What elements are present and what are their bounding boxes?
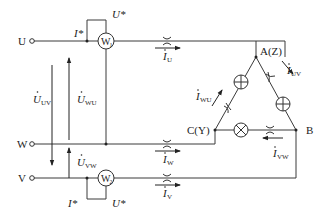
voltage-vw-dot — [81, 154, 83, 156]
lamp-vw-icon — [234, 123, 248, 137]
w1-junction-dot — [86, 40, 89, 43]
terminal-w-icon — [30, 142, 35, 147]
voltage-wu-sub: WU — [85, 99, 97, 107]
terminal-v-icon — [30, 176, 35, 181]
w2-current-mark: I* — [67, 197, 78, 209]
node-b-dot — [295, 129, 298, 132]
w-junction-dot — [105, 143, 108, 146]
lamp-wu-icon — [234, 75, 248, 89]
current-w-sub: W — [167, 159, 174, 167]
branch-a-c — [215, 57, 256, 130]
current-vw-dot — [274, 146, 276, 148]
node-a-label: A(Z) — [260, 45, 282, 58]
node-a-dot — [255, 56, 258, 59]
terminal-label-w: W — [17, 138, 28, 150]
voltage-vw-sub: VW — [85, 162, 97, 170]
current-wu-dot — [197, 89, 199, 91]
terminal-label-u: U — [18, 35, 26, 47]
wattmeter-w1-sub: 1 — [110, 42, 113, 48]
w1-voltage-mark: U* — [112, 8, 126, 20]
current-uv-dot — [288, 63, 290, 65]
circuit-svg: U W V W 1 I* U* W 2 I* U* U UV U WU U VW — [0, 0, 324, 215]
wattmeter-w2-sub: 2 — [110, 179, 113, 185]
current-vw-sub: VW — [277, 153, 289, 161]
node-c-dot — [214, 129, 217, 132]
current-uv-sub: UV — [291, 70, 301, 78]
voltage-wu-dot — [81, 91, 83, 93]
w1-current-mark: I* — [73, 27, 84, 39]
current-v-sub: V — [167, 193, 172, 201]
current-wu-sub: WU — [200, 96, 212, 104]
terminal-u-icon — [30, 39, 35, 44]
node-c-label: C(Y) — [187, 124, 210, 137]
w2-junction-dot — [86, 177, 89, 180]
voltage-uv-sub: UV — [41, 99, 51, 107]
voltage-uv-dot — [37, 91, 39, 93]
circuit-diagram: U W V W 1 I* U* W 2 I* U* U UV U WU U VW — [0, 0, 324, 215]
current-u-dot — [164, 49, 166, 51]
current-wu-arrow — [212, 90, 222, 106]
current-w-dot — [164, 152, 166, 154]
current-u-sub: U — [167, 56, 172, 64]
node-b-label: B — [306, 124, 313, 136]
terminal-label-v: V — [18, 172, 26, 184]
current-v-dot — [164, 186, 166, 188]
lamp-uv-icon — [276, 97, 290, 111]
w2-voltage-mark: U* — [112, 197, 126, 209]
